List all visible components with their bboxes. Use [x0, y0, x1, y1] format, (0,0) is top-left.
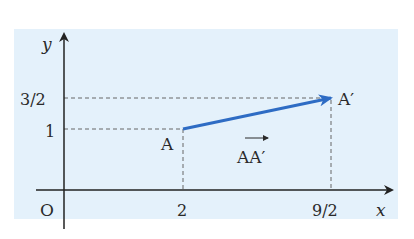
- origin-label: O: [40, 200, 54, 220]
- y-axis-label: y: [41, 34, 52, 54]
- x-tick-9-2: 9/2: [312, 201, 338, 220]
- point-A-label: A: [160, 134, 174, 154]
- x-tick-2: 2: [177, 201, 187, 220]
- vector-label: AA′: [236, 147, 266, 167]
- vector-diagram: y x O 3/2 1 2 9/2 A A′ AA′: [0, 0, 414, 239]
- y-tick-1: 1: [45, 122, 55, 141]
- x-axis-label: x: [376, 200, 386, 220]
- point-A-prime-label: A′: [337, 89, 354, 109]
- vector-AA-prime: [183, 98, 331, 129]
- guide-lines: [64, 98, 331, 190]
- y-tick-3-2: 3/2: [20, 90, 46, 109]
